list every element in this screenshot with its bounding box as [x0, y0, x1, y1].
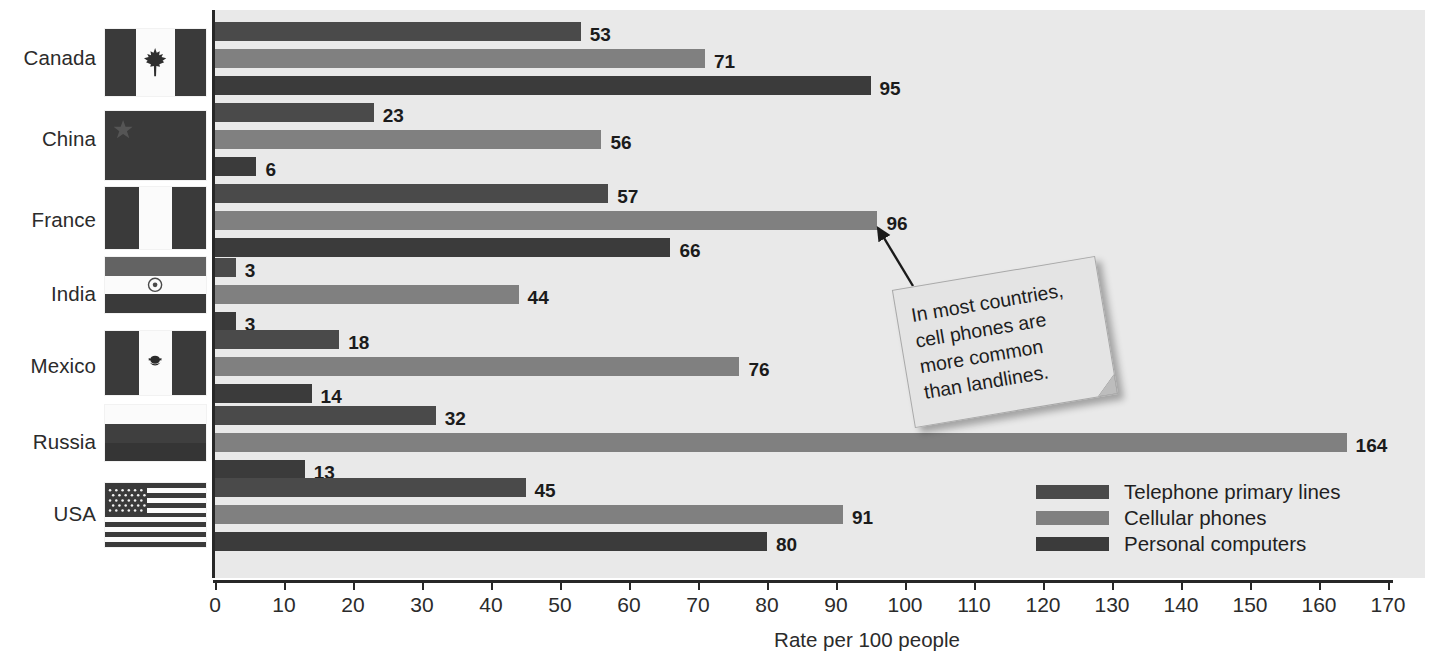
star-icon: [112, 119, 134, 141]
x-tick-label: 10: [272, 593, 295, 617]
bar-group: 96: [215, 211, 1448, 230]
bar-russia-2[interactable]: [215, 460, 305, 479]
x-tick: [836, 580, 838, 590]
bar-mexico-1[interactable]: [215, 357, 739, 376]
legend-item[interactable]: Telephone primary lines: [1036, 479, 1436, 505]
flag-graphic: [105, 111, 206, 180]
bar-canada-0[interactable]: [215, 22, 581, 41]
flag-canada: [104, 28, 207, 97]
eagle-emblem-icon: [146, 350, 164, 373]
bar-value-label: 76: [748, 360, 769, 379]
bar-value-label: 57: [617, 187, 638, 206]
x-tick: [491, 580, 493, 590]
x-tick-label: 140: [1163, 593, 1198, 617]
x-tick-label: 40: [479, 593, 502, 617]
legend-swatch: [1036, 485, 1109, 499]
flag-graphic: [105, 29, 206, 96]
bar-value-label: 56: [610, 133, 631, 152]
bar-india-0[interactable]: [215, 258, 236, 277]
bar-russia-0[interactable]: [215, 406, 436, 425]
legend-label: Telephone primary lines: [1124, 480, 1341, 504]
x-tick-label: 0: [209, 593, 221, 617]
bar-mexico-2[interactable]: [215, 384, 312, 403]
x-tick: [1112, 580, 1114, 590]
bar-value-label: 164: [1356, 436, 1388, 455]
legend-item[interactable]: Personal computers: [1036, 531, 1436, 557]
bar-group: 32: [215, 406, 1448, 425]
bar-usa-2[interactable]: [215, 532, 767, 551]
bar-usa-1[interactable]: [215, 505, 843, 524]
bar-group: 95: [215, 76, 1448, 95]
bar-group: 44: [215, 285, 1448, 304]
x-tick-label: 80: [755, 593, 778, 617]
x-tick-label: 120: [1025, 593, 1060, 617]
x-tick: [353, 580, 355, 590]
bar-value-label: 71: [714, 52, 735, 71]
bar-group: 14: [215, 384, 1448, 403]
x-tick-label: 150: [1232, 593, 1267, 617]
bar-group: 3: [215, 312, 1448, 331]
category-label-france: France: [0, 208, 96, 232]
flag-india: [104, 256, 207, 314]
flag-graphic: [105, 331, 206, 395]
flag-china: [104, 110, 207, 181]
x-tick: [1250, 580, 1252, 590]
x-tick: [215, 580, 217, 590]
callout-fold-corner: [1095, 374, 1117, 396]
bar-canada-1[interactable]: [215, 49, 705, 68]
flag-france: [104, 186, 207, 250]
bar-france-1[interactable]: [215, 211, 877, 230]
x-tick: [560, 580, 562, 590]
bar-group: 57: [215, 184, 1448, 203]
bar-india-1[interactable]: [215, 285, 519, 304]
flag-mexico: [104, 330, 207, 396]
bar-group: 18: [215, 330, 1448, 349]
bar-value-label: 45: [535, 481, 556, 500]
bar-value-label: 80: [776, 535, 797, 554]
bar-france-2[interactable]: [215, 238, 670, 257]
x-tick: [974, 580, 976, 590]
bar-value-label: 44: [528, 288, 549, 307]
bar-value-label: 96: [886, 214, 907, 233]
flag-graphic: [105, 405, 206, 461]
flag-russia: [104, 404, 207, 462]
x-tick-label: 50: [548, 593, 571, 617]
bar-mexico-0[interactable]: [215, 330, 339, 349]
bar-value-label: 32: [445, 409, 466, 428]
bar-canada-2[interactable]: [215, 76, 871, 95]
bar-value-label: 14: [321, 387, 342, 406]
x-tick: [284, 580, 286, 590]
bar-value-label: 53: [590, 25, 611, 44]
x-axis-title: Rate per 100 people: [0, 628, 1452, 652]
bar-group: 3: [215, 258, 1448, 277]
x-tick-label: 30: [410, 593, 433, 617]
bar-china-0[interactable]: [215, 103, 374, 122]
x-tick-label: 160: [1301, 593, 1336, 617]
bar-value-label: 3: [245, 261, 256, 280]
bar-value-label: 91: [852, 508, 873, 527]
bar-russia-1[interactable]: [215, 433, 1347, 452]
x-tick-label: 100: [887, 593, 922, 617]
x-tick: [1181, 580, 1183, 590]
x-tick: [1388, 580, 1390, 590]
legend-item[interactable]: Cellular phones: [1036, 505, 1436, 531]
bar-group: 76: [215, 357, 1448, 376]
bar-china-2[interactable]: [215, 157, 256, 176]
flag-graphic: [105, 257, 206, 313]
bar-usa-0[interactable]: [215, 478, 526, 497]
bar-group: 13: [215, 460, 1448, 479]
x-axis-line: [213, 580, 1393, 583]
bar-france-0[interactable]: [215, 184, 608, 203]
flag-graphic: [105, 187, 206, 249]
x-tick: [1319, 580, 1321, 590]
x-tick: [905, 580, 907, 590]
bar-india-2[interactable]: [215, 312, 236, 331]
x-tick-label: 60: [617, 593, 640, 617]
bar-china-1[interactable]: [215, 130, 601, 149]
callout-note-text: In most countries, cell phones are more …: [909, 273, 1104, 406]
category-label-russia: Russia: [0, 430, 96, 454]
x-tick-label: 170: [1370, 593, 1405, 617]
chart-legend: Telephone primary linesCellular phonesPe…: [1036, 479, 1436, 557]
legend-swatch: [1036, 511, 1109, 525]
x-tick-label: 130: [1094, 593, 1129, 617]
